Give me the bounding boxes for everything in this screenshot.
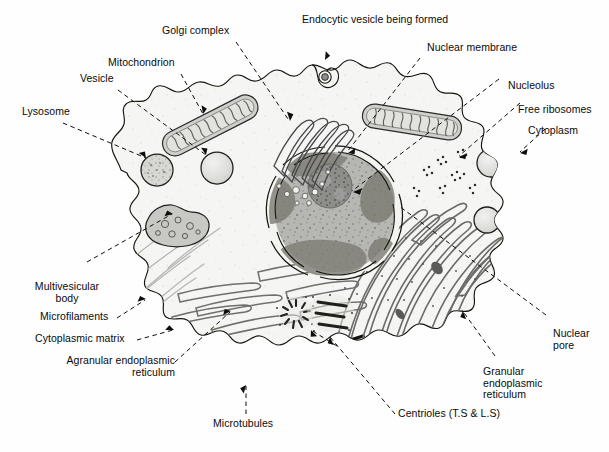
label-endocytic-vesicle: Endocytic vesicle being formed — [302, 14, 448, 26]
label-free-ribosomes: Free ribosomes — [518, 104, 592, 116]
label-vesicle: Vesicle — [80, 73, 114, 85]
label-nuclear-membrane: Nuclear membrane — [427, 42, 517, 54]
cell-diagram: Lysosome Vesicle Mitochondrion Golgi com… — [0, 0, 609, 452]
label-microfilaments: Microfilaments — [40, 311, 108, 323]
label-golgi-complex: Golgi complex — [162, 25, 229, 37]
label-mitochondrion: Mitochondrion — [108, 57, 175, 69]
label-lysosome: Lysosome — [22, 106, 70, 118]
leader-centrioles-a — [330, 337, 395, 414]
label-agranular-er: Agranular endoplasmic reticulum — [29, 355, 175, 378]
label-nucleolus: Nucleolus — [508, 80, 555, 92]
label-centrioles: Centrioles (T.S & L.S) — [398, 408, 500, 420]
label-granular-er: Granular endoplasmic reticulum — [483, 366, 543, 401]
label-microtubules: Microtubules — [213, 418, 273, 430]
leader-cytoplasmic-matrix — [137, 330, 173, 340]
leader-microfilaments — [117, 300, 145, 318]
label-cytoplasm: Cytoplasm — [528, 125, 578, 137]
vesicle — [201, 152, 233, 184]
label-multivesicular-body: Multivesicular body — [18, 281, 116, 304]
microtubules-pale — [182, 353, 348, 403]
label-cytoplasmic-matrix: Cytoplasmic matrix — [35, 333, 125, 345]
lysosome — [141, 154, 173, 186]
label-nuclear-pore: Nuclear pore — [553, 328, 590, 351]
leader-granular-er — [462, 310, 495, 356]
